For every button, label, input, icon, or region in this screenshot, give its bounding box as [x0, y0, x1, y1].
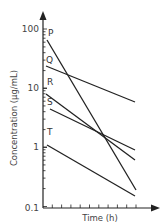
x-axis-arrow-icon	[151, 205, 160, 212]
y-tick-label-10: 10	[28, 83, 40, 93]
y-tick-label-1: 1	[33, 142, 39, 152]
series-label-t: T	[46, 127, 53, 137]
series-line-p	[47, 40, 136, 190]
y-axis-title: Concentration (µg/mL)	[9, 70, 19, 166]
y-axis-arrow-icon	[40, 11, 47, 20]
series-line-s	[50, 109, 135, 150]
concentration-time-chart: 100 10 1 0.1 Time (h) Concentration (µg/…	[0, 0, 165, 224]
x-axis-title: Time (h)	[81, 213, 118, 223]
y-tick-label-0-1: 0.1	[25, 203, 39, 213]
series-line-t	[47, 145, 135, 196]
series-line-q	[46, 66, 135, 102]
series-label-p: P	[48, 28, 54, 38]
series-label-r: R	[47, 77, 53, 87]
series-label-q: Q	[46, 55, 53, 65]
y-tick-label-100: 100	[22, 24, 39, 34]
series-label-s: S	[47, 97, 53, 107]
series-line-r	[46, 94, 135, 160]
